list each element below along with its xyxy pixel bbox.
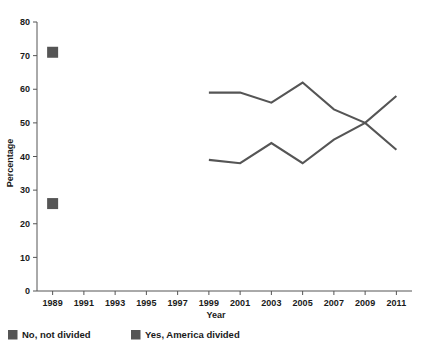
x-tick-label: 1997 — [168, 298, 188, 308]
line-chart: 01020304050607080 Percentage 19891991199… — [0, 0, 427, 352]
y-axis-ticks — [33, 22, 37, 291]
legend-swatch — [8, 330, 18, 340]
series-line-0 — [209, 83, 397, 150]
x-tick-label: 1999 — [199, 298, 219, 308]
y-tick-label: 80 — [20, 17, 30, 27]
y-tick-label: 60 — [20, 84, 30, 94]
chart-container: 01020304050607080 Percentage 19891991199… — [0, 0, 427, 352]
isolated-marker-layer — [47, 47, 58, 209]
series-layer — [209, 83, 397, 164]
x-axis-title: Year — [206, 310, 226, 320]
x-tick-label: 1991 — [74, 298, 94, 308]
x-tick-label: 1993 — [105, 298, 125, 308]
x-tick-label: 2009 — [355, 298, 375, 308]
x-tick-label: 2011 — [387, 298, 407, 308]
y-tick-label: 30 — [20, 185, 30, 195]
y-axis-title: Percentage — [5, 139, 15, 188]
x-tick-label: 1995 — [136, 298, 156, 308]
y-tick-label: 20 — [20, 219, 30, 229]
data-point-marker — [47, 47, 58, 58]
legend-label: Yes, America divided — [145, 329, 240, 340]
chart-legend: No, not dividedYes, America divided — [8, 329, 240, 340]
x-tick-label: 2005 — [293, 298, 313, 308]
y-axis-tick-labels: 01020304050607080 — [20, 17, 30, 296]
legend-swatch — [131, 330, 141, 340]
y-axis-group: 01020304050607080 Percentage — [5, 17, 37, 296]
legend-label: No, not divided — [22, 329, 91, 340]
data-point-marker — [47, 198, 58, 209]
x-tick-label: 2007 — [324, 298, 344, 308]
y-tick-label: 10 — [20, 253, 30, 263]
x-tick-label: 2003 — [261, 298, 281, 308]
x-axis-tick-labels: 1989199119931995199719992001200320052007… — [43, 298, 407, 308]
series-line-1 — [209, 96, 397, 163]
x-axis-group: 1989199119931995199719992001200320052007… — [37, 291, 412, 320]
y-tick-label: 0 — [25, 286, 30, 296]
x-axis-ticks — [53, 291, 397, 295]
y-tick-label: 70 — [20, 51, 30, 61]
y-tick-label: 40 — [20, 152, 30, 162]
x-tick-label: 1989 — [43, 298, 63, 308]
y-tick-label: 50 — [20, 118, 30, 128]
x-tick-label: 2001 — [230, 298, 250, 308]
